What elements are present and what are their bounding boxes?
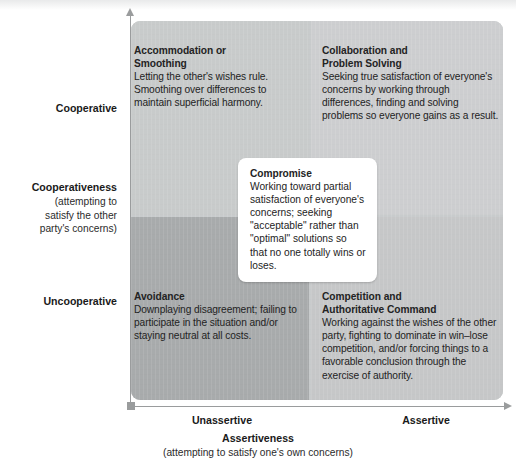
y-axis-subtitle-line3: party's concerns) <box>0 222 117 235</box>
y-axis-tick-uncooperative: Uncooperative <box>0 295 117 307</box>
quadrant-collaboration-text: Collaboration and Problem Solving Seekin… <box>322 44 500 123</box>
quadrant-collaboration-title-line1: Collaboration and <box>322 44 500 57</box>
quadrant-accommodation-body: Letting the other's wishes rule. Smoothi… <box>134 70 302 109</box>
compromise-body: Working toward partial satisfaction of e… <box>250 180 366 272</box>
quadrant-collaboration-title-line2: Problem Solving <box>322 57 500 70</box>
y-axis-arrow-icon <box>126 8 134 16</box>
quadrant-collaboration-body: Seeking true satisfaction of everyone's … <box>322 70 500 122</box>
quadrant-competition-body: Working against the wishes of the other … <box>322 316 502 381</box>
quadrant-avoidance-body: Downplaying disagreement; failing to par… <box>134 303 302 342</box>
quadrant-competition-title-line2: Authoritative Command <box>322 303 502 316</box>
x-axis-title-group: Assertiveness (attempting to satisfy one… <box>0 432 516 459</box>
y-axis-line <box>130 14 131 406</box>
quadrant-avoidance-text: Avoidance Downplaying disagreement; fail… <box>134 290 302 342</box>
quadrant-accommodation-title-line2: Smoothing <box>134 57 302 70</box>
quadrant-avoidance-title-line1: Avoidance <box>134 290 302 303</box>
x-axis-line <box>131 406 505 407</box>
x-axis-tick-assertive: Assertive <box>356 414 496 426</box>
quadrant-competition-text: Competition and Authoritative Command Wo… <box>322 290 502 382</box>
conflict-management-matrix-figure: Accommodation or Smoothing Letting the o… <box>0 0 516 461</box>
y-axis-subtitle-line2: satisfy the other <box>0 209 117 222</box>
y-axis-title: Cooperativeness <box>0 181 117 194</box>
y-axis-tick-cooperative: Cooperative <box>0 102 117 114</box>
compromise-title: Compromise <box>250 167 366 180</box>
x-axis-arrow-icon <box>504 402 512 410</box>
quadrant-accommodation-title-line1: Accommodation or <box>134 44 302 57</box>
x-axis-subtitle: (attempting to satisfy one's own concern… <box>0 446 516 460</box>
quadrant-competition-title-line1: Competition and <box>322 290 502 303</box>
quadrant-accommodation-text: Accommodation or Smoothing Letting the o… <box>134 44 302 109</box>
y-axis-subtitle-line1: (attempting to <box>0 195 117 208</box>
origin-marker-icon <box>127 402 135 410</box>
scan-artifact <box>0 0 516 10</box>
y-axis-title-group: Cooperativeness (attempting to satisfy t… <box>0 181 117 236</box>
compromise-callout: Compromise Working toward partial satisf… <box>238 158 377 282</box>
x-axis-title: Assertiveness <box>0 432 516 446</box>
x-axis-tick-unassertive: Unassertive <box>152 414 292 426</box>
